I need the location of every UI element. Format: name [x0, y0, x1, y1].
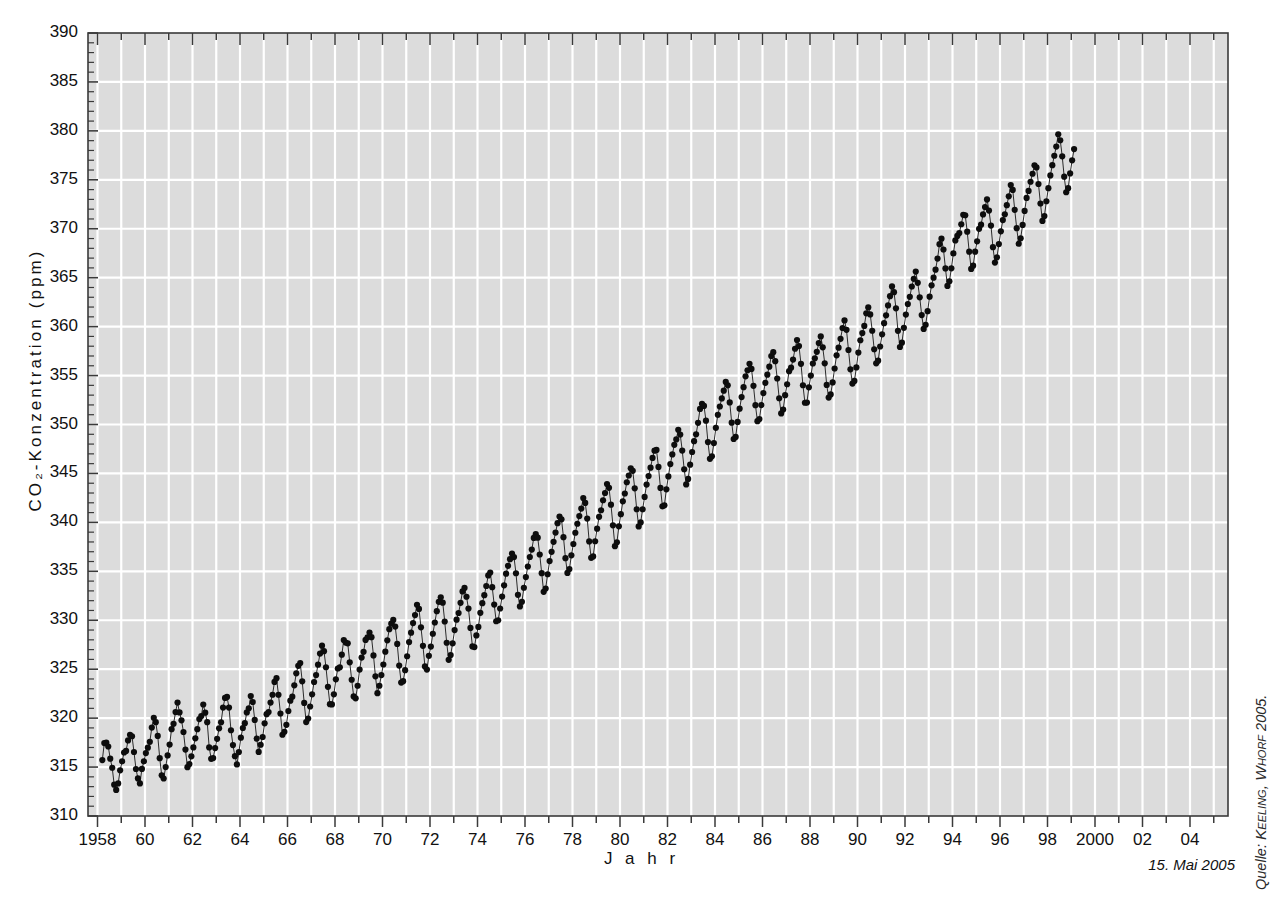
- data-point: [691, 438, 697, 444]
- data-point: [738, 394, 744, 400]
- data-point: [535, 535, 541, 541]
- data-point: [309, 691, 315, 697]
- data-point: [640, 506, 646, 512]
- data-point: [275, 692, 281, 698]
- y-tick-label: 375: [32, 169, 78, 189]
- data-point: [386, 626, 392, 632]
- data-point: [905, 301, 911, 307]
- data-point: [178, 717, 184, 723]
- data-point: [1069, 157, 1075, 163]
- data-point: [600, 497, 606, 503]
- data-point: [329, 701, 335, 707]
- data-point: [269, 692, 275, 698]
- data-point: [733, 434, 739, 440]
- data-point: [224, 694, 230, 700]
- data-point: [315, 662, 321, 668]
- y-tick-label: 365: [32, 267, 78, 287]
- data-point: [1002, 211, 1008, 217]
- data-point: [552, 529, 558, 535]
- data-point: [537, 551, 543, 557]
- data-point: [1059, 153, 1065, 159]
- data-point: [1051, 153, 1057, 159]
- data-point: [713, 425, 719, 431]
- data-point: [859, 330, 865, 336]
- data-point: [444, 640, 450, 646]
- data-point: [570, 541, 576, 547]
- data-point: [1053, 143, 1059, 149]
- x-axis-title: J a h r: [0, 849, 1283, 869]
- data-point: [632, 485, 638, 491]
- data-point: [566, 566, 572, 572]
- data-point: [527, 554, 533, 560]
- data-point: [137, 780, 143, 786]
- data-point: [721, 388, 727, 394]
- data-point: [871, 346, 877, 352]
- data-point: [115, 780, 121, 786]
- data-point: [824, 382, 830, 388]
- data-point: [355, 683, 361, 689]
- data-point: [1037, 200, 1043, 206]
- data-point: [529, 546, 535, 552]
- data-point: [321, 648, 327, 654]
- data-point: [568, 552, 574, 558]
- data-point: [1010, 187, 1016, 193]
- data-point: [141, 758, 147, 764]
- data-point: [404, 653, 410, 659]
- data-point: [994, 254, 1000, 260]
- data-point: [594, 526, 600, 532]
- y-tick-label: 330: [32, 609, 78, 629]
- data-point: [986, 207, 992, 213]
- data-point: [671, 442, 677, 448]
- data-point: [226, 704, 232, 710]
- data-point: [281, 729, 287, 735]
- data-point: [408, 630, 414, 636]
- data-point: [614, 539, 620, 545]
- data-point: [113, 787, 119, 793]
- source-credit: Quelle: Keeling, Whorf 2005.: [1252, 695, 1270, 890]
- data-point: [574, 521, 580, 527]
- data-point: [333, 676, 339, 682]
- data-point: [729, 420, 735, 426]
- data-point: [930, 275, 936, 281]
- data-point: [687, 462, 693, 468]
- data-point: [252, 717, 258, 723]
- data-point: [117, 767, 123, 773]
- data-point: [430, 631, 436, 637]
- data-point: [851, 378, 857, 384]
- data-point: [155, 733, 161, 739]
- data-point: [402, 667, 408, 673]
- data-point: [725, 382, 731, 388]
- data-point: [970, 263, 976, 269]
- data-point: [190, 744, 196, 750]
- data-point: [149, 725, 155, 731]
- data-point: [661, 502, 667, 508]
- data-point: [964, 229, 970, 235]
- data-point: [1004, 202, 1010, 208]
- data-point: [784, 381, 790, 387]
- data-point: [649, 455, 655, 461]
- data-point: [378, 672, 384, 678]
- data-point: [653, 447, 659, 453]
- data-point: [357, 666, 363, 672]
- data-point: [638, 519, 644, 525]
- data-point: [479, 600, 485, 606]
- data-point: [608, 502, 614, 508]
- data-point: [701, 403, 707, 409]
- data-point: [515, 592, 521, 598]
- y-tick-label: 360: [32, 316, 78, 336]
- data-point: [958, 221, 964, 227]
- data-point: [511, 554, 517, 560]
- data-point: [256, 749, 262, 755]
- data-point: [242, 720, 248, 726]
- data-point: [703, 418, 709, 424]
- data-point: [145, 745, 151, 751]
- data-point: [353, 695, 359, 701]
- data-point: [748, 366, 754, 372]
- data-point: [246, 705, 252, 711]
- data-point: [1025, 188, 1031, 194]
- data-point: [325, 684, 331, 690]
- data-point: [380, 661, 386, 667]
- data-point: [673, 436, 679, 442]
- data-point: [465, 606, 471, 612]
- data-point: [133, 766, 139, 772]
